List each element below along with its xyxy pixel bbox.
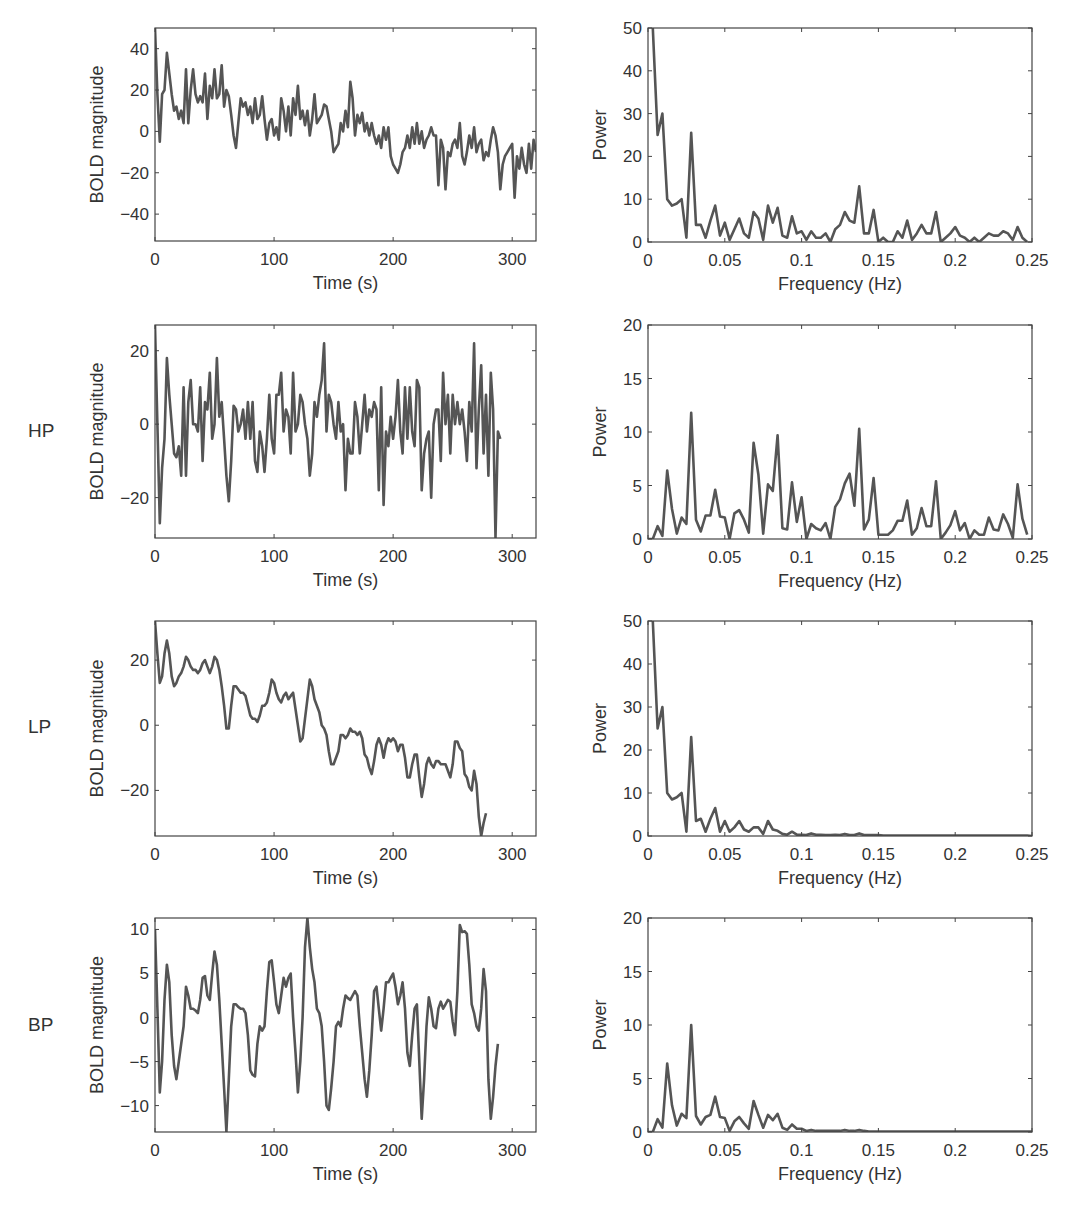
y-tick-label: 10: [623, 1016, 642, 1035]
y-tick-label: −20: [120, 164, 149, 183]
x-tick-label: 0: [150, 1141, 159, 1160]
y-tick-label: 20: [130, 342, 149, 361]
x-tick-label: 0.1: [790, 548, 814, 567]
y-tick-label: 30: [623, 105, 642, 124]
y-tick-label: 40: [623, 655, 642, 674]
y-tick-label: 10: [623, 190, 642, 209]
x-axis-label: Frequency (Hz): [778, 274, 902, 294]
y-tick-label: 50: [623, 19, 642, 38]
x-tick-label: 300: [498, 547, 526, 566]
x-tick-label: 0.05: [708, 845, 741, 864]
x-tick-label: 0: [643, 548, 652, 567]
x-tick-label: 100: [260, 845, 288, 864]
x-tick-label: 0.25: [1015, 845, 1048, 864]
x-tick-label: 0.05: [708, 548, 741, 567]
x-tick-label: 200: [379, 547, 407, 566]
y-axis-label: BOLD magnitude: [87, 65, 107, 203]
x-axis-label: Time (s): [313, 570, 378, 590]
y-axis-label: Power: [590, 999, 610, 1050]
x-tick-label: 0.2: [943, 1141, 967, 1160]
y-tick-label: 0: [140, 716, 149, 735]
x-tick-label: 100: [260, 547, 288, 566]
y-tick-label: 15: [623, 963, 642, 982]
x-tick-label: 0.15: [862, 845, 895, 864]
x-tick-label: 0.05: [708, 251, 741, 270]
y-tick-label: −40: [120, 205, 149, 224]
chart-bp-time: 0100200300−10−50510Time (s)BOLD magnitud…: [87, 918, 536, 1184]
x-axis-label: Frequency (Hz): [778, 868, 902, 888]
x-tick-label: 0.15: [862, 251, 895, 270]
y-axis-label: BOLD magnitude: [87, 659, 107, 797]
figure: HP LP BP 0100200300−40−2002040Time (s)BO…: [0, 0, 1071, 1217]
x-tick-label: 0: [150, 845, 159, 864]
chart-lp-spectrum: 00.050.10.150.20.2501020304050Frequency …: [590, 612, 1049, 888]
y-tick-label: −20: [120, 781, 149, 800]
data-line: [653, 28, 1027, 242]
data-line: [648, 413, 1027, 539]
axes-frame: [648, 918, 1032, 1132]
y-tick-label: −20: [120, 489, 149, 508]
x-tick-label: 0.15: [862, 1141, 895, 1160]
y-axis-label: Power: [590, 406, 610, 457]
data-line: [648, 1025, 1032, 1132]
x-tick-label: 0.25: [1015, 251, 1048, 270]
y-tick-label: 0: [633, 1123, 642, 1142]
axes-frame: [648, 621, 1032, 836]
y-tick-label: 10: [130, 920, 149, 939]
y-tick-label: 10: [623, 423, 642, 442]
data-line: [653, 621, 1032, 836]
x-axis-label: Time (s): [313, 868, 378, 888]
x-tick-label: 0: [643, 251, 652, 270]
y-axis-label: BOLD magnitude: [87, 362, 107, 500]
axes-frame: [155, 28, 536, 241]
x-tick-label: 200: [379, 845, 407, 864]
x-tick-label: 0.1: [790, 251, 814, 270]
y-tick-label: 20: [623, 147, 642, 166]
y-axis-label: BOLD magnitude: [87, 956, 107, 1094]
y-tick-label: 30: [623, 698, 642, 717]
x-tick-label: 0: [643, 845, 652, 864]
chart-bp-spectrum: 00.050.10.150.20.2505101520Frequency (Hz…: [590, 909, 1049, 1184]
x-axis-label: Frequency (Hz): [778, 571, 902, 591]
y-tick-label: 50: [623, 612, 642, 631]
y-tick-label: 20: [130, 81, 149, 100]
chart-hp-spectrum: 00.050.10.150.20.2505101520Frequency (Hz…: [590, 316, 1049, 591]
axes-frame: [648, 325, 1032, 539]
x-tick-label: 0: [643, 1141, 652, 1160]
y-tick-label: 0: [140, 1009, 149, 1028]
y-tick-label: −10: [120, 1097, 149, 1116]
y-tick-label: 5: [140, 964, 149, 983]
y-tick-label: 20: [130, 651, 149, 670]
x-tick-label: 0.2: [943, 251, 967, 270]
x-axis-label: Frequency (Hz): [778, 1164, 902, 1184]
x-tick-label: 300: [498, 1141, 526, 1160]
x-tick-label: 100: [260, 250, 288, 269]
y-axis-label: Power: [590, 703, 610, 754]
x-tick-label: 200: [379, 1141, 407, 1160]
plots-canvas: 0100200300−40−2002040Time (s)BOLD magnit…: [0, 0, 1071, 1217]
x-axis-label: Time (s): [313, 1164, 378, 1184]
x-tick-label: 300: [498, 845, 526, 864]
x-tick-label: 100: [260, 1141, 288, 1160]
chart-raw-spectrum: 00.050.10.150.20.2501020304050Frequency …: [590, 19, 1049, 294]
chart-lp-time: 0100200300−20020Time (s)BOLD magnitude: [87, 621, 536, 888]
y-tick-label: 0: [140, 415, 149, 434]
y-tick-label: 40: [623, 62, 642, 81]
data-line: [155, 325, 500, 538]
x-tick-label: 0.15: [862, 548, 895, 567]
x-tick-label: 0.25: [1015, 548, 1048, 567]
y-tick-label: 0: [633, 827, 642, 846]
chart-hp-time: 0100200300−20020Time (s)BOLD magnitude: [87, 325, 536, 590]
y-tick-label: 40: [130, 40, 149, 59]
axes-frame: [648, 28, 1032, 242]
y-tick-label: 10: [623, 784, 642, 803]
data-line: [155, 621, 486, 836]
y-tick-label: 0: [633, 530, 642, 549]
y-tick-label: 5: [633, 477, 642, 496]
y-tick-label: 15: [623, 370, 642, 389]
x-tick-label: 0.1: [790, 845, 814, 864]
x-tick-label: 0.05: [708, 1141, 741, 1160]
x-tick-label: 200: [379, 250, 407, 269]
y-tick-label: 20: [623, 909, 642, 928]
y-tick-label: 5: [633, 1070, 642, 1089]
